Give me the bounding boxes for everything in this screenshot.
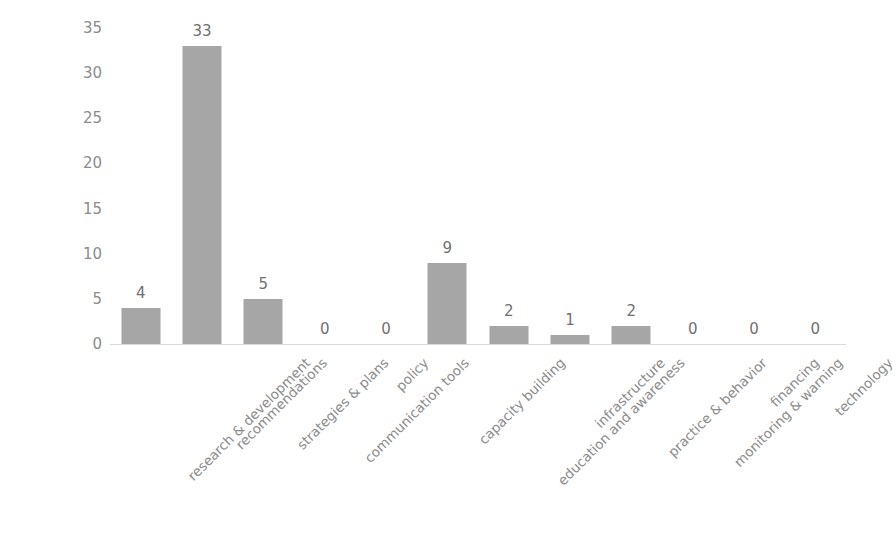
bar-group: 9 [417,0,478,534]
y-axis-tick-label: 20 [58,156,102,171]
bar[interactable] [550,335,589,344]
bar-value-label: 9 [443,241,453,256]
bar-value-label: 0 [749,322,759,337]
bar-value-label: 1 [565,313,575,328]
bar[interactable] [121,308,160,344]
bar[interactable] [489,326,528,344]
bar-group: 2 [478,0,539,534]
y-axis-tick-label: 15 [58,201,102,216]
y-axis-tick-label: 25 [58,111,102,126]
bar-value-label: 33 [192,24,211,39]
bar[interactable] [244,299,283,344]
y-axis-tick-label: 10 [58,246,102,261]
bar-value-label: 0 [320,322,330,337]
bar[interactable] [428,263,467,344]
bar[interactable] [182,46,221,344]
bar-group: 4 [110,0,171,534]
y-axis-tick-label: 5 [58,291,102,306]
y-axis-tick-label: 0 [58,337,102,352]
bar-group: 5 [233,0,294,534]
bar-value-label: 2 [627,304,637,319]
y-axis-tick-label: 35 [58,21,102,36]
bar-group: 0 [294,0,355,534]
bar-value-label: 0 [688,322,698,337]
bar-value-label: 2 [504,304,514,319]
bar-value-label: 4 [136,286,146,301]
y-axis-tick-label: 30 [58,66,102,81]
bar-group: 2 [601,0,662,534]
bar-value-label: 0 [381,322,391,337]
bar-group: 0 [785,0,846,534]
bar-value-label: 5 [259,277,269,292]
bar-value-label: 0 [811,322,821,337]
bar[interactable] [612,326,651,344]
y-axis: 05101520253035 [50,0,102,534]
